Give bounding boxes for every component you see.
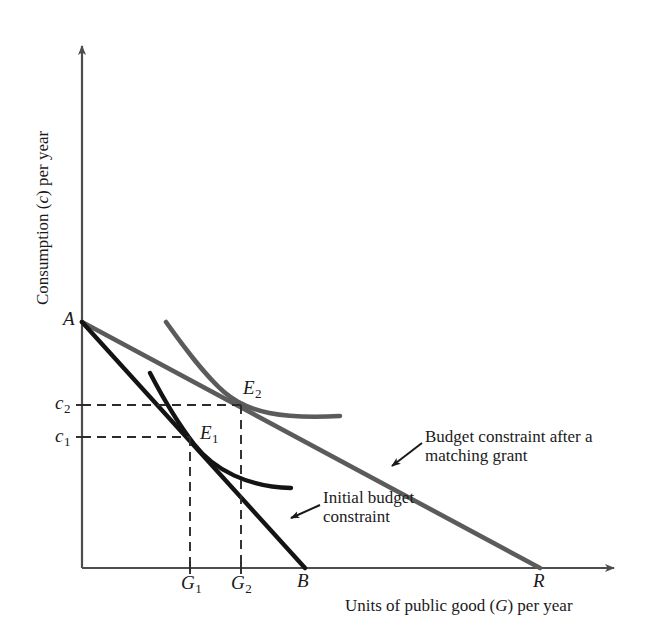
- y-tick-label-c1: c1: [55, 425, 70, 449]
- x-axis-title-prefix: Units of public good (: [345, 596, 495, 615]
- equilibrium-label-e2: E2: [243, 377, 262, 401]
- initial-budget-annotation: Initial budget constraint: [323, 488, 414, 526]
- initial-budget-annotation-line2: constraint: [323, 507, 414, 526]
- indifference-curve-2: [166, 322, 340, 417]
- initial-budget-annotation-arrow: [291, 505, 320, 518]
- x-axis-title-suffix: ) per year: [507, 596, 572, 615]
- x-tick-label-g2: G2: [231, 572, 252, 596]
- equilibrium-label-e1: E1: [200, 422, 219, 446]
- x-tick-label-g1: G1: [181, 572, 202, 596]
- y-axis-title-suffix: ) per year: [33, 131, 52, 196]
- y-tick-label-c1-text: c: [55, 425, 63, 446]
- matching-grant-annotation-arrow: [392, 443, 422, 466]
- y-tick-label-c2-text: c: [55, 392, 63, 413]
- x-tick-label-g1-sub: 1: [195, 581, 202, 596]
- diagram-canvas: [0, 0, 663, 638]
- x-axis-title: Units of public good (G) per year: [345, 596, 573, 615]
- equilibrium-label-e1-text: E: [200, 422, 212, 443]
- y-tick-label-c2-sub: 2: [64, 401, 71, 416]
- point-label-b: B: [297, 570, 309, 591]
- point-label-r-text: R: [533, 570, 545, 591]
- matching-grant-annotation-line1: Budget constraint after a: [425, 427, 593, 446]
- x-tick-label-g1-text: G: [181, 572, 195, 593]
- x-tick-label-g2-sub: 2: [245, 581, 252, 596]
- point-label-a: A: [63, 308, 75, 329]
- y-tick-label-c1-sub: 1: [64, 434, 71, 449]
- initial-budget-annotation-line1: Initial budget: [323, 488, 414, 507]
- y-axis-title-prefix: Consumption (: [33, 203, 52, 305]
- equilibrium-label-e2-text: E: [243, 377, 255, 398]
- figure-root: Consumption (c) per year Units of public…: [0, 0, 663, 638]
- matching-grant-annotation-line2: matching grant: [425, 446, 593, 465]
- equilibrium-label-e1-sub: 1: [212, 431, 219, 446]
- x-axis-title-variable: G: [495, 596, 507, 615]
- x-tick-label-g2-text: G: [231, 572, 245, 593]
- point-label-a-text: A: [63, 308, 75, 329]
- matching-grant-annotation: Budget constraint after a matching grant: [425, 427, 593, 465]
- equilibrium-label-e2-sub: 2: [255, 386, 262, 401]
- point-label-r: R: [533, 570, 545, 591]
- point-label-b-text: B: [297, 570, 309, 591]
- y-tick-label-c2: c2: [55, 392, 70, 416]
- y-axis-title-variable: c: [33, 196, 52, 204]
- y-axis-title: Consumption (c) per year: [33, 131, 52, 305]
